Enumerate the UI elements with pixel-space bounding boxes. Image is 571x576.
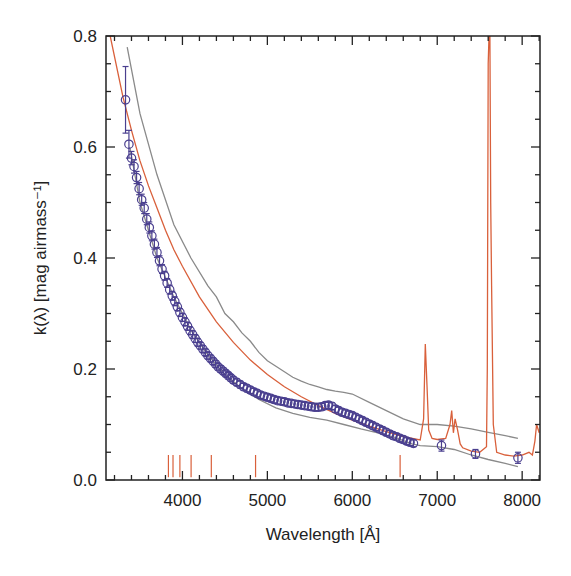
model-extinction-line — [110, 36, 539, 456]
y-tick-label: 0.2 — [73, 360, 97, 379]
y-tick-label: 0.4 — [73, 249, 97, 268]
upper-envelope-line — [127, 47, 518, 438]
plot-frame — [106, 36, 540, 480]
x-tick-label: 5000 — [248, 491, 286, 510]
y-tick-labels: 0.0 0.2 0.4 0.6 0.8 — [73, 27, 97, 490]
spectral-line-markers — [168, 455, 400, 477]
y-tick-label: 0.0 — [73, 471, 97, 490]
x-axis-title: Wavelength [Å] — [266, 525, 381, 544]
x-tick-label: 8000 — [503, 491, 541, 510]
x-tick-label: 7000 — [418, 491, 456, 510]
extinction-chart: 4000 5000 6000 7000 8000 0.0 0.2 0.4 0.6… — [0, 0, 571, 576]
plot-series — [110, 36, 539, 467]
axis-ticks — [106, 36, 540, 480]
y-tick-label: 0.8 — [73, 27, 97, 46]
x-tick-labels: 4000 5000 6000 7000 8000 — [164, 491, 542, 510]
lower-envelope-line — [130, 147, 518, 467]
y-axis-title: k(λ) [mag airmass⁻¹] — [31, 181, 50, 335]
x-tick-label: 4000 — [164, 491, 202, 510]
x-tick-label: 6000 — [333, 491, 371, 510]
y-tick-label: 0.6 — [73, 138, 97, 157]
